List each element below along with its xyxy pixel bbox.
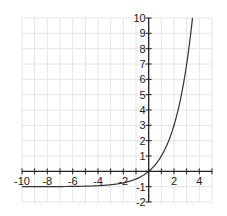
x-tick-label: -6 bbox=[68, 175, 78, 187]
x-tick-label: -10 bbox=[14, 175, 30, 187]
y-tick-label: -1 bbox=[136, 181, 146, 193]
y-tick-label: 7 bbox=[140, 58, 146, 70]
function-graph: -10-8-6-4-224 -2-112345678910 bbox=[0, 0, 227, 216]
y-tick-label: 3 bbox=[140, 119, 146, 131]
y-tick-label: 2 bbox=[140, 135, 146, 147]
x-tick-label: -8 bbox=[42, 175, 52, 187]
x-tick-label: 4 bbox=[196, 175, 202, 187]
y-tick-label: 1 bbox=[140, 150, 146, 162]
y-tick-label: -2 bbox=[136, 196, 146, 208]
x-tick-label: 2 bbox=[171, 175, 177, 187]
y-tick-label: 6 bbox=[140, 73, 146, 85]
y-tick-label: 5 bbox=[140, 89, 146, 101]
y-tick-label: 4 bbox=[140, 104, 146, 116]
x-tick-label: -2 bbox=[118, 175, 128, 187]
y-tick-label: 10 bbox=[133, 12, 145, 24]
y-tick-label: 9 bbox=[140, 27, 146, 39]
y-tick-label: 8 bbox=[140, 43, 146, 55]
